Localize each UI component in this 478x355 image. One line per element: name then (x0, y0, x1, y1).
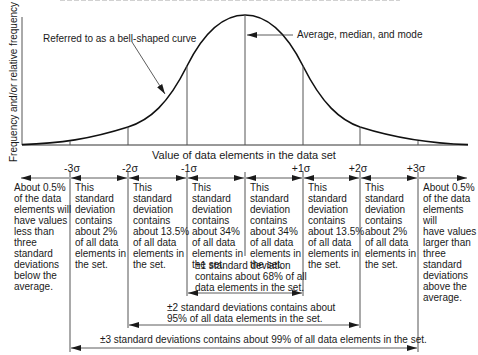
sigma-label-minus1: -1σ (181, 162, 197, 174)
text-line: have values (14, 215, 71, 226)
text-line: of all data (75, 237, 126, 248)
text-line: of all data (133, 237, 189, 248)
text-line: contains (365, 215, 416, 226)
text-line: elements in (133, 248, 189, 259)
text-line: data elements in the set. (195, 282, 307, 293)
text-line: three (14, 237, 71, 248)
y-axis-label: Frequency and/or relative frequency (8, 2, 19, 162)
text-line: about 2% (75, 226, 126, 237)
text-line: larger than (423, 237, 478, 248)
text-line: standard (14, 248, 71, 259)
region-below-minus3: About 0.5%of the dataelements willhave v… (14, 182, 71, 292)
text-line: above the (423, 281, 478, 292)
text-line: standard (365, 193, 416, 204)
region-minus2-minus1: Thisstandarddeviationcontainsabout 13.5%… (133, 182, 189, 270)
text-line: three (423, 248, 478, 259)
text-line: deviation (192, 204, 243, 215)
text-line: elements in (365, 248, 416, 259)
text-line: contains (192, 215, 243, 226)
sigma-label-minus2: -2σ (122, 162, 138, 174)
text-line: ±1 standard deviation (195, 260, 307, 271)
center-callout-label: Average, median, and mode (297, 29, 422, 40)
region-mean-plus1: Thisstandarddeviationcontainsabout 34%of… (250, 182, 301, 270)
text-line: elements will (14, 204, 71, 215)
text-line: about 13.5% (133, 226, 189, 237)
text-line: elements in (192, 248, 243, 259)
text-line: ±3 standard deviations contains about 99… (100, 334, 427, 345)
text-line: contains (308, 215, 364, 226)
text-line: This (250, 182, 301, 193)
text-line: contains (250, 215, 301, 226)
text-line: have values (423, 226, 478, 237)
text-line: standard (250, 193, 301, 204)
text-line: This (365, 182, 416, 193)
text-line: deviation (133, 204, 189, 215)
text-line: the set. (75, 259, 126, 270)
text-line: of the data (423, 193, 478, 204)
text-line: This (75, 182, 126, 193)
text-line: the set. (308, 259, 364, 270)
text-line: about 34% (192, 226, 243, 237)
text-line: average. (423, 292, 478, 303)
text-line: ±2 standard deviations contains about (167, 302, 335, 313)
curve-callout-label: Referred to as a bell-shaped curve (43, 33, 196, 44)
span-3sigma-note: ±3 standard deviations contains about 99… (100, 334, 427, 345)
text-line: standard (192, 193, 243, 204)
sigma-label-plus2: +2σ (349, 162, 367, 174)
span-2sigma-note: ±2 standard deviations contains about95%… (167, 302, 335, 324)
text-line: about 13.5% (308, 226, 364, 237)
text-line: deviations (423, 270, 478, 281)
text-line: deviation (75, 204, 126, 215)
text-line: This (133, 182, 189, 193)
text-line: of the data (14, 193, 71, 204)
text-line: about 34% (250, 226, 301, 237)
sigma-label-plus3: +3σ (407, 162, 425, 174)
curve-callout-arrow (132, 42, 165, 94)
text-line: About 0.5% (14, 182, 71, 193)
text-line: standard (133, 193, 189, 204)
text-line: below the (14, 270, 71, 281)
region-plus2-plus3: Thisstandarddeviationcontainsabout 2%of … (365, 182, 416, 270)
x-axis-label: Value of data elements in the data set (0, 149, 478, 161)
text-line: This (192, 182, 243, 193)
text-line: elements in (308, 248, 364, 259)
text-line: standard (75, 193, 126, 204)
text-line: deviation (365, 204, 416, 215)
sigma-label-plus1: +1σ (292, 162, 310, 174)
text-line: elements in (75, 248, 126, 259)
sigma-label-minus3: -3σ (64, 162, 80, 174)
text-line: the set. (133, 259, 189, 270)
text-line: about 2% (365, 226, 416, 237)
text-line: elements will (423, 204, 478, 226)
region-above-plus3: About 0.5%of the dataelements willhave v… (423, 182, 478, 303)
text-line: 95% of all data elements in the set. (167, 313, 335, 324)
text-line: standard (423, 259, 478, 270)
text-line: About 0.5% (423, 182, 478, 193)
text-line: elements in (250, 248, 301, 259)
region-plus1-plus2: Thisstandarddeviationcontainsabout 13.5%… (308, 182, 364, 270)
text-line: of all data (192, 237, 243, 248)
text-line: deviation (308, 204, 364, 215)
span-1sigma-note: ±1 standard deviationcontains about 68% … (195, 260, 307, 293)
text-line: less than (14, 226, 71, 237)
text-line: contains about 68% of all (195, 271, 307, 282)
text-line: the set. (365, 259, 416, 270)
text-line: standard (308, 193, 364, 204)
region-minus1-mean: Thisstandarddeviationcontainsabout 34%of… (192, 182, 243, 270)
text-line: average. (14, 281, 71, 292)
region-minus3-minus2: Thisstandarddeviationcontainsabout 2%of … (75, 182, 126, 270)
text-line: This (308, 182, 364, 193)
text-line: of all data (308, 237, 364, 248)
text-line: contains (75, 215, 126, 226)
text-line: of all data (250, 237, 301, 248)
text-line: of all data (365, 237, 416, 248)
text-line: deviations (14, 259, 71, 270)
text-line: contains (133, 215, 189, 226)
text-line: deviation (250, 204, 301, 215)
